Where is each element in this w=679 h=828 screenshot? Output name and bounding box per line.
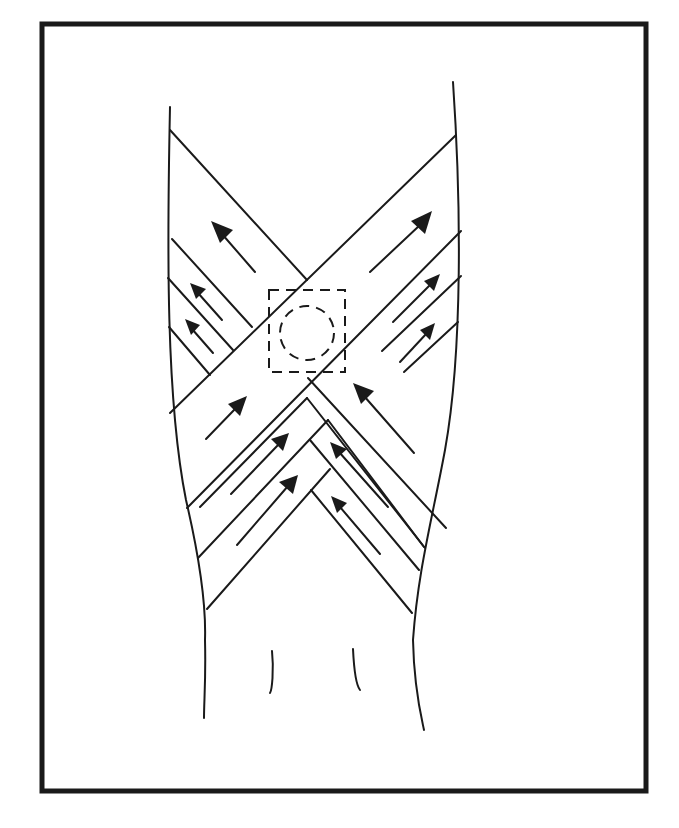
arrow-up-right-icon [370, 211, 432, 272]
strip-up-left-bottom-edge [308, 378, 446, 528]
strip-up-left-top-edge [170, 130, 307, 280]
arrow-up-right-icon [393, 274, 440, 322]
taping-diagram [0, 0, 679, 828]
left-strip-edge-3 [169, 327, 210, 375]
figure-frame [42, 24, 646, 791]
wrist-crease-right [353, 649, 360, 690]
left-strip-edge-1 [172, 239, 252, 327]
forearm-left-edge [168, 107, 205, 718]
forearm-right-edge [413, 82, 459, 730]
dashed-circle [280, 306, 334, 360]
arrow-up-right-icon [231, 433, 289, 494]
arrow-up-left-icon [211, 221, 255, 272]
chevron-right-edge-3 [310, 440, 419, 570]
arrow-up-right-icon [206, 396, 247, 439]
strip-up-right-bottom-edge [187, 231, 461, 508]
arrow-up-left-icon [353, 383, 414, 453]
chevron-right-edge-4 [311, 490, 412, 613]
wrist-crease-left [270, 651, 273, 693]
